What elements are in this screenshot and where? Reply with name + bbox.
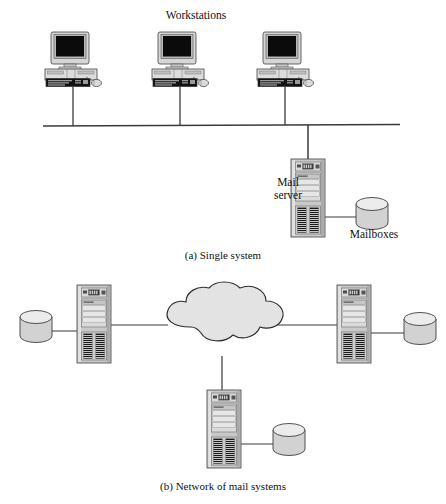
- caption-panel-b: (b) Network of mail systems: [0, 480, 446, 492]
- mail-system-left-server[interactable]: [77, 285, 111, 363]
- panel-b-network-of-mail-systems: [20, 282, 436, 468]
- mailboxes-cylinder[interactable]: [356, 198, 388, 230]
- internet-cloud[interactable]: [167, 282, 283, 341]
- workstation-1[interactable]: [45, 32, 102, 87]
- mail-system-bottom-server[interactable]: [207, 390, 241, 468]
- workstation-3[interactable]: [257, 32, 314, 87]
- mail-system-left-storage[interactable]: [20, 311, 52, 343]
- workstation-2[interactable]: [152, 32, 209, 87]
- mail-system-bottom-storage[interactable]: [273, 424, 305, 456]
- network-diagram-figure: Workstations Mail server Mailboxes (a) S…: [0, 0, 446, 504]
- mail-server-label: Mail server: [228, 176, 348, 202]
- network-bus-line: [43, 125, 400, 127]
- caption-panel-a: (a) Single system: [0, 249, 446, 261]
- panel-a-single-system: [43, 32, 400, 237]
- mail-system-right-server[interactable]: [337, 285, 371, 363]
- mail-system-right-storage[interactable]: [404, 313, 436, 345]
- mailboxes-label: Mailboxes: [314, 228, 434, 241]
- workstations-label: Workstations: [0, 9, 419, 22]
